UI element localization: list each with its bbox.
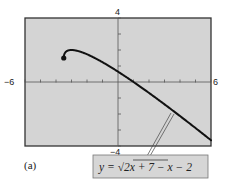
graph-figure: −6 6 4 −4 y = √2x + 7 − x − 2 (a) bbox=[0, 0, 228, 187]
radicand: 2x + 7 bbox=[124, 161, 155, 173]
x-min-label: −6 bbox=[4, 77, 14, 87]
y-max-label: 4 bbox=[115, 7, 120, 17]
x-max-label: 6 bbox=[213, 77, 218, 87]
panel-label: (a) bbox=[24, 159, 37, 172]
equation-label: y = √2x + 7 − x − 2 bbox=[98, 161, 192, 174]
start-point-marker bbox=[61, 55, 66, 60]
